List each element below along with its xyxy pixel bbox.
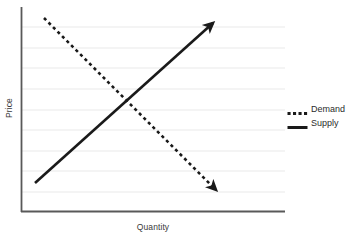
gridlines-group — [22, 27, 285, 192]
solid-line-swatch-icon — [287, 118, 308, 127]
legend-label-supply: Supply — [311, 118, 339, 128]
dashed-line-swatch-icon — [287, 104, 308, 113]
legend-item-supply[interactable]: Supply — [287, 117, 345, 128]
x-axis-title: Quantity — [0, 222, 306, 232]
legend-item-demand[interactable]: Demand — [287, 103, 345, 114]
chart-legend: Demand Supply — [287, 103, 345, 128]
y-axis-title: Price — [4, 88, 14, 128]
legend-label-demand: Demand — [311, 104, 345, 114]
supply-demand-chart: Quantity Price Demand Supply — [0, 0, 358, 243]
